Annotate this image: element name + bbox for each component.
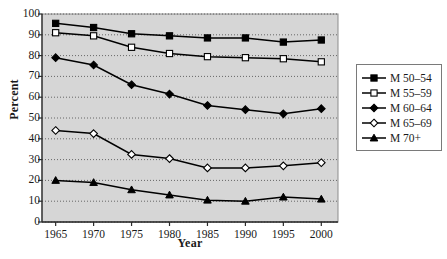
filled-triangle-icon <box>361 131 387 145</box>
legend-item[interactable]: M 50–54 <box>361 70 437 85</box>
legend-label: M 70+ <box>387 132 421 144</box>
legend-item[interactable]: M 60–64 <box>361 100 437 115</box>
chart-legend: M 50–54M 55–59M 60–64M 65–69M 70+ <box>356 64 442 151</box>
x-axis-title: Year <box>42 236 338 251</box>
filled-square-icon <box>361 71 387 85</box>
filled-diamond-icon <box>361 101 387 115</box>
open-square-icon <box>361 86 387 100</box>
legend-item[interactable]: M 70+ <box>361 130 437 145</box>
open-diamond-icon <box>361 116 387 130</box>
legend-item[interactable]: M 65–69 <box>361 115 437 130</box>
legend-label: M 55–59 <box>387 87 432 99</box>
legend-item[interactable]: M 55–59 <box>361 85 437 100</box>
legend-label: M 65–69 <box>387 117 432 129</box>
legend-label: M 50–54 <box>387 72 432 84</box>
chart-container: Percent 0102030405060708090100 196519701… <box>0 0 447 259</box>
legend-label: M 60–64 <box>387 102 432 114</box>
